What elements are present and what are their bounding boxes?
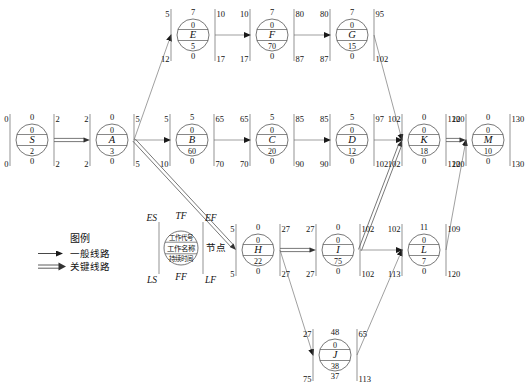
- node-letter: M: [483, 134, 494, 145]
- network-diagram-svg: 0S20020020A32052050B605565100700C2065585…: [0, 0, 527, 388]
- node-A[interactable]: 0A3205205: [84, 112, 140, 169]
- node-lf-value: 102: [376, 54, 389, 64]
- node-letter: L: [420, 244, 427, 255]
- node-letter: E: [189, 29, 197, 40]
- node-tf-value: 0: [110, 112, 114, 122]
- node-letter: K: [419, 134, 428, 145]
- node-ls-value: 12: [161, 54, 170, 64]
- node-ls-value: 5: [230, 269, 234, 279]
- node-ls-value: 75: [303, 374, 312, 384]
- node-letter: I: [335, 244, 340, 255]
- node-ff-value: 0: [486, 156, 490, 166]
- node-ef-value: 65: [216, 114, 225, 124]
- node-letter: C: [268, 134, 276, 145]
- node-es-value: 5: [165, 9, 169, 19]
- node-code: 0: [422, 236, 426, 245]
- node-ef-value: 10: [217, 9, 226, 19]
- node-tf-value: 7: [191, 7, 195, 17]
- node-ls-value: 2: [84, 159, 88, 169]
- node-ff-value: 0: [191, 51, 195, 61]
- node-tf-value: 48: [331, 327, 340, 337]
- node-tf-value: 0: [422, 112, 426, 122]
- general-edge-line: [374, 35, 402, 140]
- general-edge-line: [446, 140, 466, 250]
- node-es-value: 10: [240, 9, 249, 19]
- node-J[interactable]: 0J382748657537113: [303, 327, 371, 384]
- node-ls-value: 27: [306, 269, 315, 279]
- node-es-value: 27: [303, 329, 312, 339]
- node-ef-value: 130: [512, 114, 525, 124]
- node-es-value: 27: [306, 224, 315, 234]
- critical-edge-arrowhead: [230, 243, 236, 250]
- critical-edge-arrowhead: [309, 247, 316, 252]
- node-lf-value: 5: [136, 159, 140, 169]
- node-ff-value: 0: [110, 156, 114, 166]
- node-ef-value: 27: [282, 224, 291, 234]
- legend-layer: 图例一般线路关键线路工作代号工作名称持续时间节点ESTFEFLSFFLF: [38, 211, 226, 285]
- edge-L-M: [446, 140, 466, 250]
- node-code: 0: [270, 126, 274, 135]
- node-ef-value: 97: [376, 114, 385, 124]
- node-es-value: 5: [230, 224, 234, 234]
- node-ff-value: 0: [422, 156, 426, 166]
- node-ef-value: 95: [376, 9, 385, 19]
- node-tf-value: 0: [30, 112, 34, 122]
- node-duration: 70: [268, 42, 276, 51]
- node-duration: 22: [254, 257, 262, 266]
- node-ef-value: 5: [136, 114, 140, 124]
- edge-H-J: [280, 250, 313, 355]
- edge-A-E: [134, 35, 171, 140]
- node-code: 0: [270, 21, 274, 30]
- node-H[interactable]: 0H2250275027: [230, 222, 290, 279]
- node-ff-value: 0: [190, 156, 194, 166]
- node-ef-value: 109: [448, 224, 461, 234]
- legend-node-word-label: 节点: [206, 242, 226, 253]
- node-tf-value: 5: [350, 112, 354, 122]
- node-lf-value: 130: [512, 159, 525, 169]
- node-ls-value: 70: [240, 159, 249, 169]
- node-es-value: 120: [452, 114, 465, 124]
- node-tf-value: 0: [256, 222, 260, 232]
- edges-layer: [54, 35, 466, 355]
- node-code: 0: [422, 126, 426, 135]
- node-es-value: 102: [388, 114, 401, 124]
- node-ef-value: 85: [296, 114, 305, 124]
- general-edge-line: [134, 35, 171, 140]
- node-G[interactable]: 0G1580795870102: [320, 7, 388, 64]
- node-tf-value: 5: [190, 112, 194, 122]
- legend-ls-label: LS: [146, 275, 157, 285]
- edge-K-M: [446, 137, 466, 142]
- node-ef-value: 102: [362, 224, 375, 234]
- node-S[interactable]: 0S2002002: [4, 112, 60, 169]
- node-ef-value: 2: [56, 114, 60, 124]
- node-code: 0: [191, 21, 195, 30]
- node-lf-value: 2: [56, 159, 60, 169]
- node-ls-value: 90: [320, 159, 329, 169]
- legend-row-name-label: 工作名称: [167, 244, 196, 253]
- legend-row-duration-label: 持续时间: [169, 254, 193, 263]
- node-tf-value: 0: [486, 112, 490, 122]
- node-duration: 10: [484, 147, 492, 156]
- node-es-value: 0: [4, 114, 8, 124]
- node-lf-value: 17: [217, 54, 226, 64]
- node-tf-value: 7: [350, 7, 354, 17]
- node-ff-value: 0: [270, 51, 274, 61]
- general-edge-line: [357, 250, 402, 355]
- node-lf-value: 70: [216, 159, 225, 169]
- node-ls-value: 102: [388, 159, 401, 169]
- legend-ef-label: EF: [204, 213, 217, 223]
- node-ls-value: 0: [4, 159, 8, 169]
- node-duration: 75: [334, 257, 342, 266]
- legend-es-label: ES: [145, 213, 157, 223]
- node-ls-value: 87: [320, 54, 329, 64]
- critical-edge-line-b: [135, 139, 234, 245]
- node-duration: 18: [420, 147, 428, 156]
- node-es-value: 5: [164, 114, 168, 124]
- node-code: 0: [333, 341, 337, 350]
- edge-S-A: [54, 137, 90, 142]
- node-es-value: 80: [320, 9, 329, 19]
- node-ls-value: 113: [388, 269, 400, 279]
- node-lf-value: 113: [359, 374, 371, 384]
- node-duration: 12: [348, 147, 356, 156]
- legend-critical-arrowhead-icon: [59, 263, 67, 271]
